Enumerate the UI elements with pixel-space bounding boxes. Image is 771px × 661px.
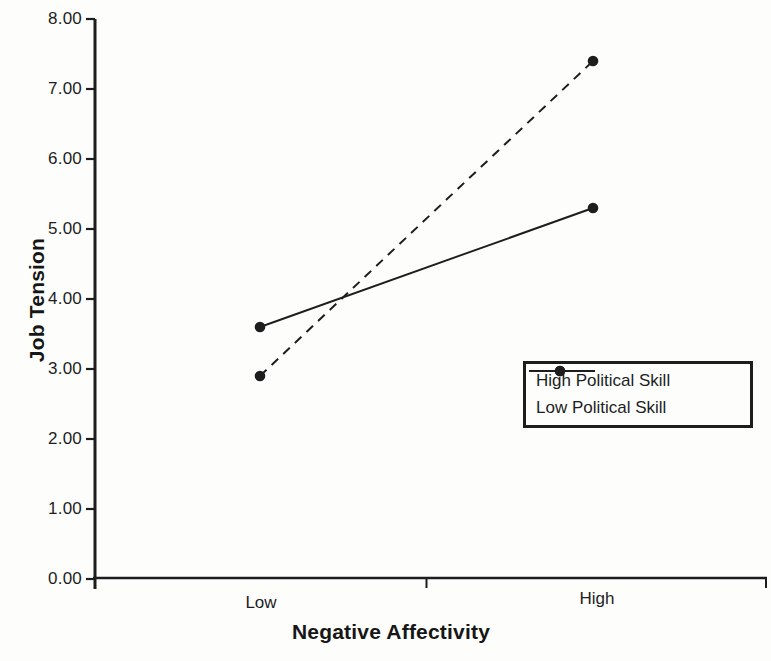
y-tick-label: 1.00 xyxy=(30,499,82,519)
y-tick-label: 7.00 xyxy=(30,79,82,99)
figure: 0.001.002.003.004.005.006.007.008.00 Low… xyxy=(0,0,771,661)
x-category-label-low: Low xyxy=(245,593,276,613)
y-tick-label: 2.00 xyxy=(30,429,82,449)
legend-label-low-political-skill: Low Political Skill xyxy=(536,398,666,418)
dashed-line-sample xyxy=(526,364,598,378)
legend: High Political Skill Low Political Skill xyxy=(523,361,753,428)
labels-overlay: 0.001.002.003.004.005.006.007.008.00 Low… xyxy=(0,0,771,661)
x-category-label-high: High xyxy=(580,589,615,609)
x-axis-title: Negative Affectivity xyxy=(292,620,490,644)
y-tick-label: 8.00 xyxy=(30,9,82,29)
y-tick-label: 0.00 xyxy=(30,569,82,589)
legend-item-low-political-skill: Low Political Skill xyxy=(536,398,750,418)
y-axis-title: Job Tension xyxy=(25,238,49,362)
y-tick-label: 5.00 xyxy=(30,219,82,239)
y-tick-label: 6.00 xyxy=(30,149,82,169)
